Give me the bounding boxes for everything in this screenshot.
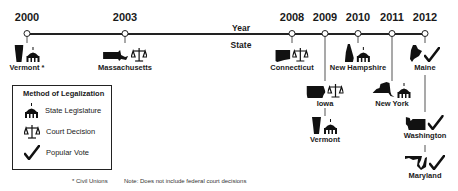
event-washington-2012: Washington [404,112,447,140]
legend-label: Court Decision [46,127,95,136]
checkmark-icon [428,115,444,130]
scales-icon [328,83,344,98]
checkmark-icon [424,47,440,62]
connector-2011 [392,35,393,81]
timeline-axis [27,33,426,35]
year-label-2000: 2000 [15,11,39,23]
state-name: Vermont * [9,63,44,72]
axis-label-year: Year [232,23,250,33]
event-iowa-2009: Iowa [307,80,344,108]
washington-map-icon [406,117,426,130]
event-vermont-2000: Vermont * [9,44,44,72]
capitol-icon [397,83,412,98]
year-label-2010: 2010 [346,11,370,23]
legend-item-state-legislature: State Legislature [24,103,101,118]
event-new-hampshire-2010: New Hampshire [330,44,386,72]
massachusetts-map-icon [103,50,129,62]
state-name: Maine [414,63,435,72]
event-connecticut-2008: Connecticut [270,44,313,72]
legend-label: Popular Vote [46,148,89,157]
node-2009 [322,30,329,37]
connector-2009 [325,35,326,81]
legend-label: State Legislature [45,106,101,115]
capitol-icon [356,47,371,62]
year-label-2009: 2009 [313,11,337,23]
node-2011 [389,30,396,37]
scales-icon [131,47,147,62]
capitol-icon [323,119,338,134]
maine-map-icon [410,45,422,62]
state-name: Massachusetts [98,63,152,72]
state-name: Connecticut [270,63,313,72]
iowa-map-icon [307,86,326,98]
legend: Method of Legalization State Legislature… [12,85,112,170]
state-name: New Hampshire [330,63,386,72]
year-label-2003: 2003 [113,11,137,23]
year-label-2008: 2008 [280,11,304,23]
node-2008 [289,30,296,37]
legend-item-court-decision: Court Decision [24,124,95,139]
node-2010 [355,30,362,37]
legend-title: Method of Legalization [23,89,104,98]
vermont-map-icon [14,45,23,62]
node-2012 [422,30,429,37]
capitol-icon [25,47,40,62]
year-label-2011: 2011 [380,11,404,23]
state-name: Washington [404,131,447,140]
connector-2012-washington-maryland [425,145,426,152]
new-hampshire-map-icon [345,44,354,62]
legend-item-popular-vote: Popular Vote [24,145,89,160]
maryland-map-icon [405,155,427,170]
state-name: New York [375,99,409,108]
new-york-map-icon [373,82,395,98]
event-massachusetts-2003: Massachusetts [98,44,152,72]
event-new-york-2011: New York [373,80,412,108]
connector-2009-iowa-vermont [325,108,326,116]
event-maine-2012: Maine [410,44,440,72]
connector-2012-maine-washington [425,75,426,112]
year-label-2012: 2012 [413,11,437,23]
scales-icon [24,124,40,139]
state-name: Iowa [317,99,334,108]
scales-icon [293,47,309,62]
checkmark-icon [24,145,40,160]
event-maryland-2012: Maryland [405,152,445,180]
connecticut-map-icon [276,50,291,62]
node-2000 [24,30,31,37]
event-vermont-2009: Vermont [310,116,340,144]
axis-label-state: State [231,40,252,50]
capitol-icon [24,103,39,118]
state-name: Maryland [409,171,442,180]
vermont-map-icon [312,117,321,134]
node-2003 [122,30,129,37]
footnote-civil-unions: * Civil Unions [72,178,108,184]
footnote-note: Note: Does not include federal court dec… [124,178,246,184]
checkmark-icon [429,155,445,170]
state-name: Vermont [310,135,340,144]
